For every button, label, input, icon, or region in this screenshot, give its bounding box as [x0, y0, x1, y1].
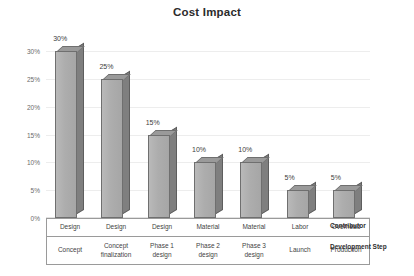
table-cell: Phase 3 design	[231, 237, 277, 264]
table-cell: Concept	[47, 237, 93, 264]
y-axis-tick-label: 25%	[6, 75, 40, 82]
bar-3d-body	[333, 190, 355, 218]
table-cell: Phase 2 design	[185, 237, 231, 264]
table-row-key-contributor: Contributor	[330, 222, 410, 230]
bar-3d-body	[287, 190, 309, 218]
bar-front-face	[194, 162, 216, 218]
bar-front-face	[333, 190, 355, 218]
bar-side-face	[123, 71, 130, 214]
gridline	[46, 135, 370, 136]
bar-side-face	[170, 126, 177, 214]
category-table: DesignDesignDesignMaterialMaterialLaborO…	[46, 218, 370, 265]
bar-3d-body	[148, 135, 170, 218]
bar-3d-body	[194, 162, 216, 218]
bar-value-label: 5%	[285, 174, 295, 181]
y-axis-tick-label: 10%	[6, 159, 40, 166]
table-cell: Concept finalization	[93, 237, 139, 264]
bar: 5%	[287, 190, 309, 218]
bar-side-face	[77, 43, 84, 214]
bar: 5%	[333, 190, 355, 218]
table-cell: Material	[185, 219, 231, 236]
y-axis-tick-label: 5%	[6, 187, 40, 194]
bar: 25%	[101, 79, 123, 218]
bar-value-label: 5%	[331, 174, 341, 181]
bar: 15%	[148, 135, 170, 218]
table-row-development-step: ConceptConcept finalizationPhase 1 desig…	[46, 237, 370, 265]
y-axis-tick-label: 30%	[6, 48, 40, 55]
bar-3d-body	[240, 162, 262, 218]
bar-front-face	[55, 51, 77, 218]
bar-value-label: 25%	[99, 63, 113, 70]
bar: 10%	[240, 162, 262, 218]
bar: 30%	[55, 51, 77, 218]
y-axis-tick-label: 20%	[6, 103, 40, 110]
bar-front-face	[240, 162, 262, 218]
bar-value-label: 15%	[146, 119, 160, 126]
table-cell: Design	[47, 219, 93, 236]
table-row-contributor: DesignDesignDesignMaterialMaterialLaborO…	[46, 218, 370, 237]
table-cell: Material	[231, 219, 277, 236]
bar-3d-body	[55, 51, 77, 218]
bar-front-face	[287, 190, 309, 218]
gridline	[46, 79, 370, 80]
y-axis-tick-label: 0%	[6, 215, 40, 222]
cost-impact-chart: Cost Impact 0%5%10%15%20%25%30% 30%25%15…	[0, 0, 414, 276]
bar: 10%	[194, 162, 216, 218]
bar-3d-body	[101, 79, 123, 218]
bar-value-label: 10%	[238, 146, 252, 153]
table-row-key-development-step: Development Step	[330, 243, 410, 251]
bar-side-face	[262, 154, 269, 214]
table-cell: Labor	[277, 219, 323, 236]
bar-front-face	[101, 79, 123, 218]
table-cell: Design	[139, 219, 185, 236]
y-axis-tick-label: 15%	[6, 131, 40, 138]
gridline	[46, 107, 370, 108]
table-cell: Phase 1 design	[139, 237, 185, 264]
table-cell: Launch	[277, 237, 323, 264]
plot-area: 30%25%15%10%10%5%5%	[46, 40, 370, 218]
bar-value-label: 10%	[192, 146, 206, 153]
gridline	[46, 51, 370, 52]
table-cell: Design	[93, 219, 139, 236]
bar-value-label: 30%	[53, 35, 67, 42]
bar-front-face	[148, 135, 170, 218]
